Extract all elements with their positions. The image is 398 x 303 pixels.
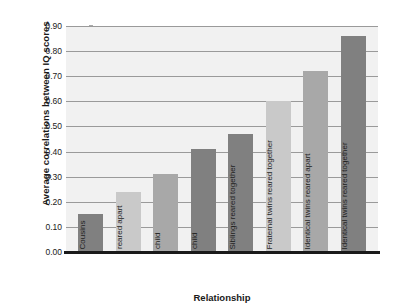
bar-label: Cousins (78, 220, 86, 249)
y-tick-label: 0.00 (34, 247, 62, 257)
bar[interactable]: Siblings reared together (228, 134, 253, 252)
bar-slot: Foster parent/child (147, 26, 185, 252)
y-tick-label: 0.50 (34, 121, 62, 131)
bar[interactable]: Siblingsreared apart (116, 192, 141, 252)
y-tick-label: 0.10 (34, 222, 62, 232)
y-tick-label: 0.40 (34, 147, 62, 157)
y-tick-label: 0.30 (34, 172, 62, 182)
bar-slot: Identical twins reared together (335, 26, 373, 252)
bar-label: Identical twins reared apart (303, 153, 311, 249)
x-axis-title: Relationship (66, 292, 378, 303)
y-tick-label: 0.70 (34, 71, 62, 81)
bar-slot: Identical twins reared apart (297, 26, 335, 252)
y-tick-label: 0.20 (34, 197, 62, 207)
bar[interactable]: Identical twins reared together (341, 36, 366, 252)
bar[interactable]: Fraternal twins reared together (266, 101, 291, 252)
bar-label: Identical twins reared together (341, 142, 349, 249)
bar[interactable]: Foster parent/child (153, 174, 178, 252)
bar-label: Siblingsreared apart (116, 205, 124, 249)
bar-label: Biological parent/child (191, 188, 199, 249)
bar-slot: Siblingsreared apart (110, 26, 148, 252)
y-tick-label: 0.90 (34, 21, 62, 31)
bar-slot: Fraternal twins reared together (260, 26, 298, 252)
plot-area: CousinsSiblingsreared apartFoster parent… (66, 26, 378, 252)
bar[interactable]: Cousins (78, 214, 103, 252)
bar-label: Foster parent/child (153, 199, 161, 249)
bar-label: Fraternal twins reared together (266, 140, 274, 249)
bar[interactable]: Identical twins reared apart (303, 71, 328, 252)
bar-slot: Siblings reared together (222, 26, 260, 252)
x-axis-line (64, 251, 380, 254)
bar-series: CousinsSiblingsreared apartFoster parent… (66, 26, 378, 252)
bar-slot: Cousins (72, 26, 110, 252)
y-tick-label: 0.80 (34, 46, 62, 56)
top-caption (0, 0, 398, 9)
bar[interactable]: Biological parent/child (191, 149, 216, 252)
chart-figure: Average correlations between IQ scores 0… (8, 16, 390, 268)
y-axis-tick-labels: 0.900.800.700.600.500.400.300.200.100.00 (34, 16, 62, 268)
y-tick-label: 0.60 (34, 96, 62, 106)
bar-slot: Biological parent/child (185, 26, 223, 252)
bar-label: Siblings reared together (228, 164, 236, 249)
